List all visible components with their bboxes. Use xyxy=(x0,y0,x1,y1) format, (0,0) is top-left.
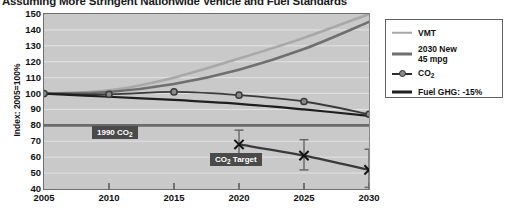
chart-legend: VMT2030 New45 mpgCO2Fuel GHG: -15% xyxy=(385,19,503,98)
marker-circle xyxy=(106,91,112,97)
annot-target-text: CO xyxy=(215,155,227,164)
legend-entry-1[interactable]: 2030 New45 mpg xyxy=(391,43,498,65)
marker-circle xyxy=(44,90,47,96)
marker-circle xyxy=(171,89,177,95)
x-axis-tick-labels: 200520102015202020252030 xyxy=(43,192,370,210)
x-tick-2005: 2005 xyxy=(22,192,66,203)
y-axis-tick-labels: 150140130120110100908070605040 xyxy=(0,13,41,190)
legend-marker-circle-icon xyxy=(399,70,406,77)
legend-label: 2030 New45 mpg xyxy=(418,44,457,64)
series-lines xyxy=(44,14,369,170)
x-tick-2015: 2015 xyxy=(152,192,196,203)
legend-swatch-icon xyxy=(391,48,413,60)
legend-label-line2: 45 mpg xyxy=(418,54,457,64)
annot-1990-sub: 2 xyxy=(129,131,133,138)
legend-label: CO2 xyxy=(418,68,434,79)
annot-1990-text: 1990 CO xyxy=(97,128,129,137)
legend-label: Fuel GHG: -15% xyxy=(418,87,482,97)
y-tick-120: 120 xyxy=(3,57,41,67)
legend-swatch-icon xyxy=(391,27,413,39)
plot-svg xyxy=(44,14,369,189)
y-tick-140: 140 xyxy=(3,25,41,35)
reference-line-label-1990: 1990 CO2 xyxy=(92,126,138,139)
x-tick-2030: 2030 xyxy=(347,192,391,203)
y-tick-110: 110 xyxy=(3,73,41,83)
annot-target-text-after: Target xyxy=(231,155,257,164)
legend-entry-0[interactable]: VMT xyxy=(391,25,498,40)
legend-entry-3[interactable]: Fuel GHG: -15% xyxy=(391,84,498,99)
y-tick-70: 70 xyxy=(3,136,41,146)
legend-label-line1: 2030 New xyxy=(418,44,457,54)
legend-label: VMT xyxy=(418,28,436,38)
marker-circle xyxy=(301,98,307,104)
legend-swatch-icon xyxy=(391,68,413,80)
plot-area: 1990 CO2 CO2 Target xyxy=(43,13,370,190)
marker-circle xyxy=(236,92,242,98)
legend-label-text: Fuel GHG: -15% xyxy=(418,87,482,97)
y-tick-130: 130 xyxy=(3,41,41,51)
marker-circle xyxy=(366,111,369,117)
y-tick-90: 90 xyxy=(3,104,41,114)
co2-target-label: CO2 Target xyxy=(210,153,262,166)
x-tick-2025: 2025 xyxy=(282,192,326,203)
annot-target-sub: 2 xyxy=(227,158,231,165)
x-tick-2020: 2020 xyxy=(217,192,261,203)
chart-root: Assuming More Stringent Nationwide Vehic… xyxy=(0,0,506,211)
x-tick-marks xyxy=(109,183,369,189)
y-tick-80: 80 xyxy=(3,120,41,130)
series-line-vmt xyxy=(44,14,369,94)
x-tick-2010: 2010 xyxy=(87,192,131,203)
chart-title: Assuming More Stringent Nationwide Vehic… xyxy=(2,0,422,8)
legend-label-text: CO xyxy=(418,68,431,78)
legend-swatch-icon xyxy=(391,86,413,98)
legend-entry-2[interactable]: CO2 xyxy=(391,66,498,81)
legend-label-sub: 2 xyxy=(431,72,435,79)
legend-label-text: VMT xyxy=(418,28,436,38)
y-tick-150: 150 xyxy=(3,9,41,19)
y-tick-100: 100 xyxy=(3,89,41,99)
y-tick-60: 60 xyxy=(3,152,41,162)
y-tick-50: 50 xyxy=(3,168,41,178)
